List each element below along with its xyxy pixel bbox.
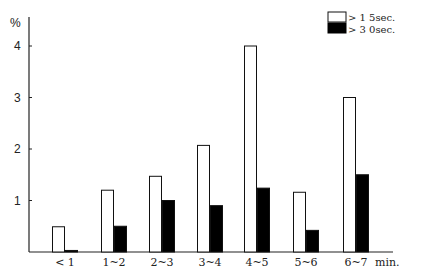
bar-15sec xyxy=(102,190,114,252)
x-axis-label: min. xyxy=(375,256,400,269)
bar-30sec xyxy=(211,206,223,252)
bar-30sec xyxy=(357,175,369,252)
x-tick-label: 3~4 xyxy=(198,256,221,269)
bar-15sec xyxy=(344,98,356,253)
x-tick-label: 2~3 xyxy=(150,256,173,269)
y-axis-label: % xyxy=(10,16,21,30)
bar-15sec xyxy=(294,192,306,252)
bar-chart: % min. 1234 < 11~22~33~44~55~66~7 > 1 5s… xyxy=(0,0,422,276)
legend-swatch-30sec xyxy=(328,23,346,33)
legend-label-15sec: > 1 5sec. xyxy=(348,12,395,23)
bar-15sec xyxy=(245,46,257,252)
y-tick-label: 4 xyxy=(14,39,21,53)
x-tick-label: 4~5 xyxy=(245,256,268,269)
y-tick-label: 2 xyxy=(14,142,21,156)
x-tick-label: 1~2 xyxy=(102,256,125,269)
y-tick-label: 1 xyxy=(14,194,21,208)
bar-30sec xyxy=(258,188,270,252)
x-tick-label: < 1 xyxy=(55,256,75,269)
x-tick-label: 6~7 xyxy=(344,256,367,269)
legend-label-30sec: > 3 0sec. xyxy=(348,24,395,35)
x-tick-label: 5~6 xyxy=(294,256,317,269)
bar-15sec xyxy=(198,145,210,252)
bar-15sec xyxy=(150,176,162,252)
bar-15sec xyxy=(53,227,65,252)
legend: > 1 5sec. > 3 0sec. xyxy=(328,12,395,35)
y-tick-label: 3 xyxy=(14,91,21,105)
bar-30sec xyxy=(307,230,319,252)
bar-30sec xyxy=(66,250,78,252)
legend-swatch-15sec xyxy=(328,12,346,22)
bar-30sec xyxy=(115,226,127,252)
bar-30sec xyxy=(163,201,175,253)
